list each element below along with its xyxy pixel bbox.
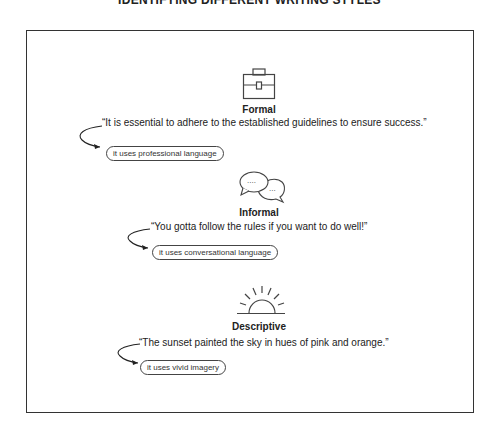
formal-quote: “It is essential to adhere to the establ… — [102, 117, 427, 128]
informal-note: it uses conversational language — [152, 245, 278, 260]
page-title: IDENTIFYING DIFFERENT WRITING STYLES — [0, 0, 499, 7]
descriptive-quote: “The sunset painted the sky in hues of p… — [139, 337, 389, 348]
sunset-icon — [235, 284, 287, 316]
briefcase-icon — [242, 68, 276, 100]
informal-quote: “You gotta follow the rules if you want … — [151, 221, 367, 232]
formal-heading: Formal — [209, 104, 309, 115]
formal-note: it uses professional language — [106, 146, 224, 161]
curved-arrow-icon — [74, 122, 108, 156]
curved-arrow-icon — [122, 226, 156, 256]
informal-heading: Informal — [209, 207, 309, 218]
descriptive-heading: Descriptive — [209, 321, 309, 332]
speech-bubbles-icon: .... ... — [238, 170, 288, 204]
svg-text:...: ... — [269, 184, 276, 193]
svg-text:....: .... — [247, 176, 256, 185]
descriptive-note: it uses vivid imagery — [140, 360, 226, 375]
